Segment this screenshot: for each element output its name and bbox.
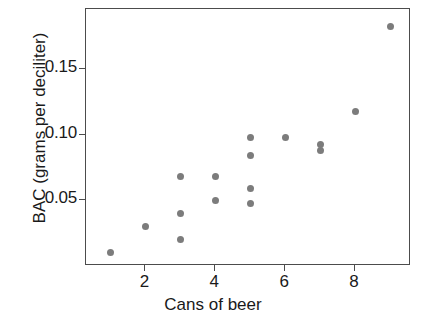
data-point bbox=[317, 141, 324, 148]
x-axis-tick bbox=[214, 265, 215, 271]
x-axis-tick bbox=[144, 265, 145, 271]
x-axis-tick-label: 4 bbox=[199, 272, 229, 292]
data-point bbox=[177, 236, 184, 243]
x-axis-tick-label: 6 bbox=[269, 272, 299, 292]
y-axis-title: BAC (grams per deciliter) bbox=[30, 0, 50, 268]
data-point bbox=[212, 173, 219, 180]
data-point bbox=[247, 152, 254, 159]
data-point bbox=[282, 134, 289, 141]
y-axis-tick bbox=[79, 68, 85, 69]
data-point bbox=[142, 223, 149, 230]
data-point bbox=[247, 200, 254, 207]
data-point bbox=[317, 147, 324, 154]
data-point bbox=[387, 23, 394, 30]
plot-area bbox=[86, 9, 409, 264]
x-axis-tick bbox=[354, 265, 355, 271]
scatter-plot-figure: 0.050.100.15 2468 Cans of beer BAC (gram… bbox=[0, 0, 426, 324]
y-axis-tick bbox=[79, 199, 85, 200]
x-axis-tick-label: 2 bbox=[129, 272, 159, 292]
y-axis-tick bbox=[79, 134, 85, 135]
x-axis-title: Cans of beer bbox=[0, 295, 426, 315]
data-point bbox=[352, 108, 359, 115]
data-point bbox=[247, 185, 254, 192]
data-point bbox=[212, 197, 219, 204]
data-point bbox=[107, 249, 114, 256]
x-axis-tick bbox=[284, 265, 285, 271]
data-point bbox=[177, 173, 184, 180]
x-axis-tick-label: 8 bbox=[339, 272, 369, 292]
data-point bbox=[177, 210, 184, 217]
data-point bbox=[247, 134, 254, 141]
plot-frame bbox=[85, 8, 410, 265]
